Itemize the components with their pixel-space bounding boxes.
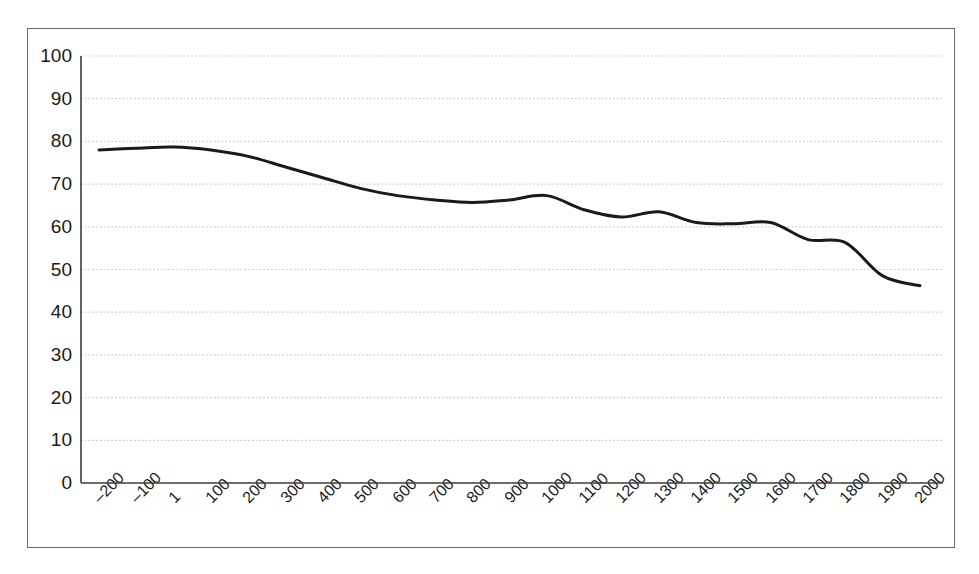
chart-figure: 0102030405060708090100 –200–100110020030… [0, 0, 979, 574]
y-gridlines [81, 56, 943, 440]
line-chart-plot [0, 0, 979, 574]
data-series-line [99, 147, 920, 286]
